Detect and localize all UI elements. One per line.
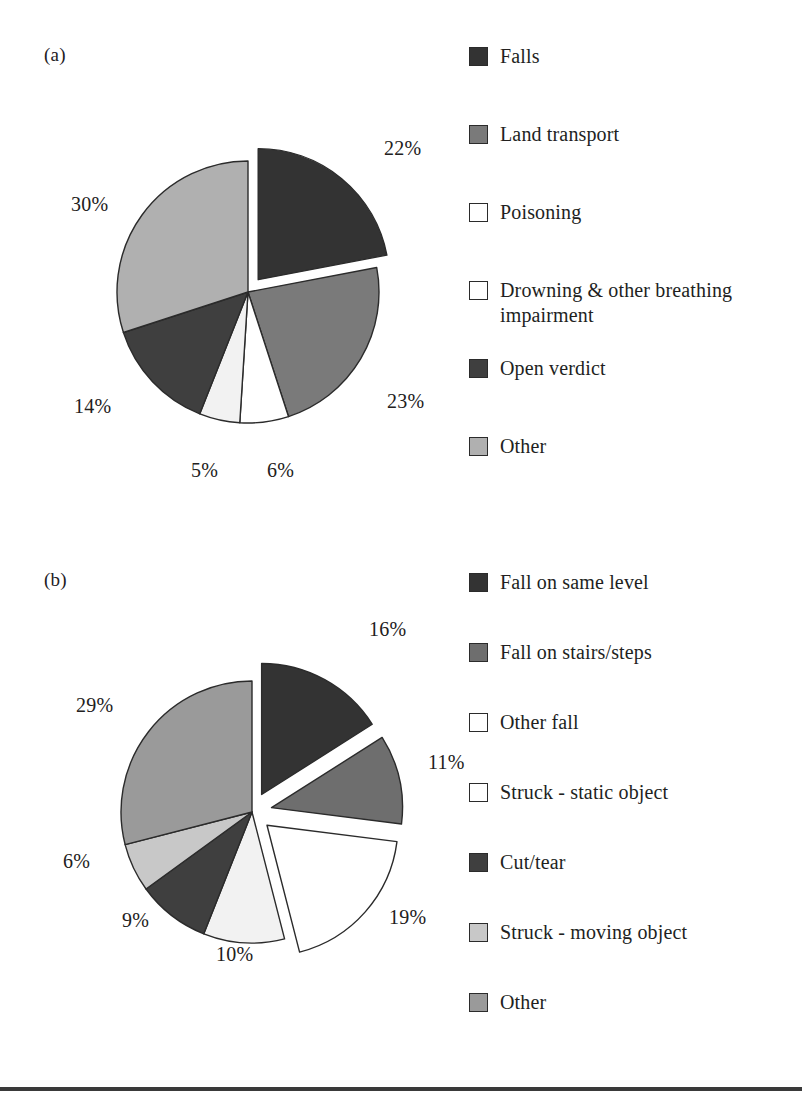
legend-swatch-icon-other-fall <box>469 713 488 732</box>
legend-item-poisoning[interactable]: Poisoning <box>469 200 799 225</box>
pie-b-legend: Fall on same levelFall on stairs/stepsOt… <box>469 570 799 1015</box>
pie-a-value-label-land-transport: 23% <box>387 390 425 413</box>
pie-a-slice-falls <box>258 149 387 280</box>
pie-a-legend: FallsLand transportPoisoningDrowning & o… <box>469 44 799 459</box>
legend-swatch-icon-other <box>469 437 488 456</box>
legend-swatch-icon-open-verdict <box>469 359 488 378</box>
legend-swatch-icon-land-transport <box>469 125 488 144</box>
pie-b-value-label-struck-moving: 6% <box>63 850 90 873</box>
legend-label-fall-on-same-level: Fall on same level <box>500 570 649 595</box>
legend-item-struck-moving-object[interactable]: Struck - moving object <box>469 920 799 945</box>
figure-pie-charts: (a) 22% 23% 6% 5% 14% 30% FallsLand tran… <box>0 0 802 1107</box>
pie-chart-b <box>100 620 410 950</box>
legend-item-falls[interactable]: Falls <box>469 44 799 69</box>
pie-b-value-label-fall-same-level: 16% <box>369 618 407 641</box>
legend-swatch-icon-poisoning <box>469 203 488 222</box>
legend-label-drowning-and-other-breathing-impairment: Drowning & other breathing impairment <box>500 278 799 328</box>
legend-item-cut-tear[interactable]: Cut/tear <box>469 850 799 875</box>
legend-label-struck-static-object: Struck - static object <box>500 780 668 805</box>
panel-letter-a: (a) <box>44 44 66 66</box>
legend-item-other[interactable]: Other <box>469 990 799 1015</box>
legend-label-falls: Falls <box>500 44 540 69</box>
pie-chart-a <box>96 104 406 434</box>
pie-b-value-label-struck-static: 10% <box>216 943 254 966</box>
pie-b-slice-other-fall <box>267 825 397 952</box>
legend-swatch-icon-struck-moving-object <box>469 923 488 942</box>
pie-a-value-label-other: 30% <box>71 193 109 216</box>
pie-a-canvas <box>96 104 406 434</box>
legend-item-other-fall[interactable]: Other fall <box>469 710 799 735</box>
legend-label-land-transport: Land transport <box>500 122 619 147</box>
legend-label-other: Other <box>500 434 546 459</box>
legend-item-struck-static-object[interactable]: Struck - static object <box>469 780 799 805</box>
pie-a-value-label-drowning: 6% <box>267 459 294 482</box>
panel-letter-b: (b) <box>44 569 67 591</box>
legend-swatch-icon-fall-on-stairs-steps <box>469 643 488 662</box>
pie-a-value-label-falls: 22% <box>384 137 422 160</box>
legend-item-drowning-and-other-breathing-impairment[interactable]: Drowning & other breathing impairment <box>469 278 799 328</box>
pie-a-value-label-poisoning: 5% <box>191 459 218 482</box>
legend-item-fall-on-same-level[interactable]: Fall on same level <box>469 570 799 595</box>
pie-a-value-label-open-verdict: 14% <box>74 395 112 418</box>
legend-label-open-verdict: Open verdict <box>500 356 606 381</box>
legend-swatch-icon-struck-static-object <box>469 783 488 802</box>
legend-swatch-icon-other <box>469 993 488 1012</box>
legend-swatch-icon-drowning-and-other-breathing-impairment <box>469 281 488 300</box>
pie-b-value-label-cut-tear: 9% <box>122 909 149 932</box>
legend-item-land-transport[interactable]: Land transport <box>469 122 799 147</box>
legend-label-other-fall: Other fall <box>500 710 579 735</box>
pie-b-value-label-fall-stairs: 11% <box>428 751 465 774</box>
legend-item-other[interactable]: Other <box>469 434 799 459</box>
legend-item-fall-on-stairs-steps[interactable]: Fall on stairs/steps <box>469 640 799 665</box>
pie-b-value-label-other-fall: 19% <box>389 906 427 929</box>
legend-swatch-icon-fall-on-same-level <box>469 573 488 592</box>
legend-label-fall-on-stairs-steps: Fall on stairs/steps <box>500 640 652 665</box>
legend-swatch-icon-cut-tear <box>469 853 488 872</box>
legend-label-struck-moving-object: Struck - moving object <box>500 920 687 945</box>
pie-b-canvas <box>100 620 410 950</box>
bottom-rule-divider <box>0 1087 802 1091</box>
pie-b-value-label-other: 29% <box>76 694 114 717</box>
legend-label-other: Other <box>500 990 546 1015</box>
legend-item-open-verdict[interactable]: Open verdict <box>469 356 799 381</box>
legend-label-cut-tear: Cut/tear <box>500 850 566 875</box>
legend-label-poisoning: Poisoning <box>500 200 581 225</box>
legend-swatch-icon-falls <box>469 47 488 66</box>
